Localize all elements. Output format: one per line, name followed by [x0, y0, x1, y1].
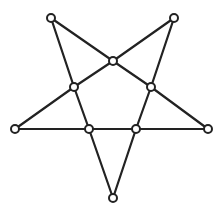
- edge-inner-left-to-inner-bottom-left: [74, 87, 89, 129]
- edge-inner-top-to-inner-right: [113, 61, 151, 87]
- node-tip-top-right: [170, 14, 178, 22]
- edge-inner-right-to-tip-right: [151, 87, 208, 129]
- node-tip-bottom: [109, 194, 117, 202]
- node-inner-bottom-left: [85, 125, 93, 133]
- edge-inner-left-to-tip-left: [15, 87, 74, 129]
- edge-inner-bottom-left-to-tip-bottom: [89, 129, 113, 198]
- edge-tip-top-left-to-inner-left: [51, 18, 74, 87]
- graph-nodes: [11, 14, 212, 202]
- pentagram-graph-diagram: [0, 0, 224, 213]
- edge-inner-top-to-inner-left: [74, 61, 113, 87]
- node-inner-left: [70, 83, 78, 91]
- edge-tip-top-right-to-inner-top: [113, 18, 174, 61]
- node-tip-right: [204, 125, 212, 133]
- graph-edges: [15, 18, 208, 198]
- node-tip-top-left: [47, 14, 55, 22]
- node-inner-top: [109, 57, 117, 65]
- edge-tip-top-right-to-inner-right: [151, 18, 174, 87]
- edge-tip-top-left-to-inner-top: [51, 18, 113, 61]
- node-inner-bottom-right: [132, 125, 140, 133]
- edge-inner-bottom-right-to-tip-bottom: [113, 129, 136, 198]
- node-inner-right: [147, 83, 155, 91]
- node-tip-left: [11, 125, 19, 133]
- edge-inner-right-to-inner-bottom-right: [136, 87, 151, 129]
